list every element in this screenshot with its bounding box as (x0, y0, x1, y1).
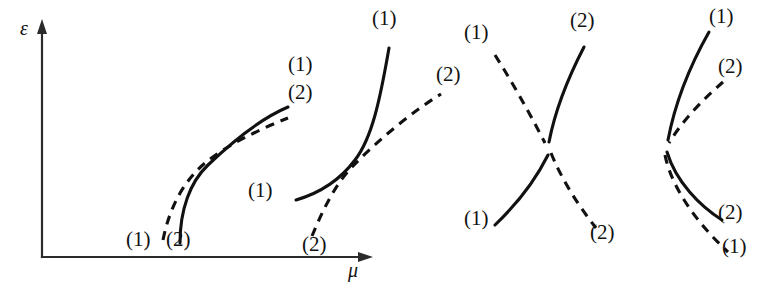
figure-root: ε μ (1) (2) (1) (2) (1) (2) (1) (2) (1) … (0, 0, 771, 286)
panel-3-label-1-upper: (1) (464, 22, 489, 43)
panel-3-label-2-upper: (2) (570, 10, 595, 31)
panel-2-label-1-start: (1) (248, 180, 273, 201)
panel-1-label-1-start: (1) (126, 229, 151, 250)
y-axis-arrowhead (37, 19, 47, 34)
y-axis-label: ε (20, 18, 28, 38)
panel-1-label-1-end: (1) (288, 54, 313, 75)
x-axis-label: μ (348, 260, 358, 280)
panel-4-label-2-upper: (2) (718, 56, 743, 77)
panel-4-label-2-lower: (2) (718, 202, 743, 223)
panel-3-curve-1-upper-dashed (495, 55, 545, 143)
panel-4-curve-1-upper-solid (668, 32, 709, 140)
panel-3-curve-2-upper-solid (549, 47, 584, 142)
panel-2-curves (296, 48, 441, 236)
panel-3-curve-1-lower-solid (495, 155, 548, 225)
x-axis-arrowhead (358, 252, 373, 262)
panel-2-label-2-end: (2) (436, 64, 461, 85)
panel-1-label-2-end: (2) (288, 82, 313, 103)
figure-canvas (0, 0, 771, 286)
panel-4-curve-2-upper-dashed (669, 82, 723, 143)
panel-1-curve-2-solid (180, 107, 288, 243)
panel-2-label-1-end: (1) (372, 8, 397, 29)
panel-1-label-2-start: (2) (166, 229, 191, 250)
panel-4-label-1-lower: (1) (722, 236, 747, 257)
panel-3-label-2-lower: (2) (590, 222, 615, 243)
panel-3-curves (495, 47, 596, 228)
panel-2-label-2-start: (2) (302, 234, 327, 255)
panel-3-label-1-lower: (1) (464, 208, 489, 229)
axis-group (37, 19, 373, 262)
panel-3-curve-2-lower-dashed (551, 153, 596, 228)
panel-1-curves (163, 107, 288, 243)
panel-4-label-1-upper: (1) (709, 6, 734, 27)
